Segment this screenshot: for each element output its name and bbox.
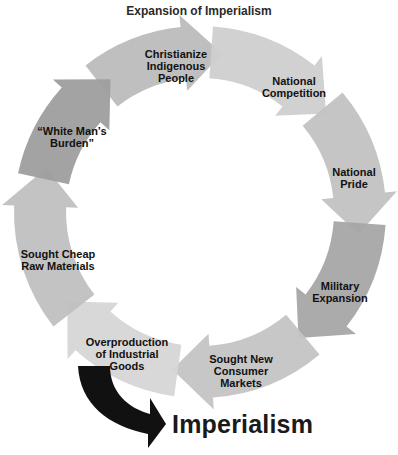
cycle-step-label: Sought Cheap Raw Materials — [21, 248, 96, 272]
cycle-step-label: Military Expansion — [312, 280, 368, 304]
cycle-step-label: National Competition — [262, 75, 326, 99]
cycle-step-label: “White Man’s Burden” — [37, 125, 106, 149]
cycle-step-label: Christianize Indigenous People — [145, 48, 207, 84]
cycle-arrow-2 — [209, 26, 326, 115]
cycle-step-label: Sought New Consumer Markets — [209, 353, 273, 389]
outcome-label: Imperialism — [172, 410, 313, 439]
cycle-step-label: Overproduction of Industrial Goods — [86, 336, 169, 372]
cycle-step-label: National Pride — [332, 166, 375, 190]
